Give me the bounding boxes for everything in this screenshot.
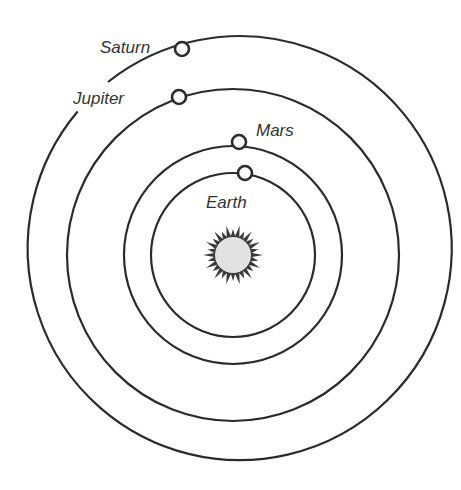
mars-planet — [232, 135, 246, 149]
saturn-planet — [175, 42, 189, 56]
sun-icon — [203, 226, 263, 284]
saturn-label: Saturn — [100, 38, 150, 57]
jupiter-label: Jupiter — [72, 89, 125, 108]
earth-label: Earth — [206, 193, 247, 212]
earth-planet — [238, 166, 252, 180]
jupiter-planet — [172, 90, 186, 104]
solar-system-diagram: Saturn Jupiter Mars Earth — [0, 0, 461, 490]
mars-label: Mars — [256, 121, 294, 140]
sun-core — [215, 237, 251, 273]
